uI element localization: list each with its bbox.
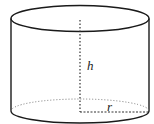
height-label: h [87, 58, 94, 73]
cylinder-bottom-front-arc [11, 111, 149, 123]
cylinder-diagram: h r [0, 0, 154, 124]
